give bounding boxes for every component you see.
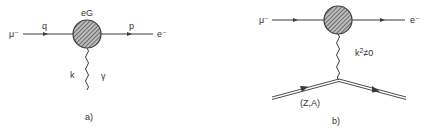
photon-wavy-line-b (337, 34, 340, 80)
incoming-momentum-label-a: q (42, 22, 47, 31)
photon-wavy-line-a (86, 48, 89, 90)
photon-momentum-label-a: k (70, 71, 75, 80)
arrow-icon (293, 18, 298, 22)
arrow-icon (127, 32, 132, 36)
caption-b: b) (332, 117, 340, 126)
photon-label-a: γ (101, 72, 106, 81)
diagram-b (272, 6, 406, 100)
arrow-icon (43, 32, 48, 36)
arrow-icon (380, 18, 385, 22)
photon-condition-rest: ≠0 (363, 48, 373, 58)
outgoing-particle-label-b: e⁻ (410, 16, 420, 25)
nucleus-label-b: (Z,A) (300, 99, 320, 108)
vertex-label-a: eG (81, 9, 93, 18)
incoming-particle-label-a: μ⁻ (9, 30, 19, 39)
photon-condition-label-b: k2≠0 (355, 47, 373, 58)
feynman-diagrams (0, 0, 427, 134)
outgoing-momentum-label-a: p (129, 22, 134, 31)
nucleus-line-incoming (272, 79, 339, 100)
vertex-blob-b (324, 6, 352, 34)
outgoing-particle-label-a: e⁻ (157, 30, 167, 39)
caption-a: a) (85, 113, 93, 122)
vertex-blob-a (73, 20, 101, 48)
incoming-particle-label-b: μ⁻ (259, 16, 269, 25)
